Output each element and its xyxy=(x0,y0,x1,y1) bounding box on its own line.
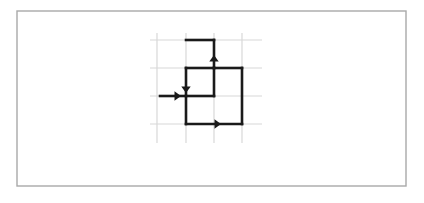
figure-canvas xyxy=(0,0,424,203)
grid-path-diagram xyxy=(0,0,424,203)
canvas-background xyxy=(0,0,424,203)
